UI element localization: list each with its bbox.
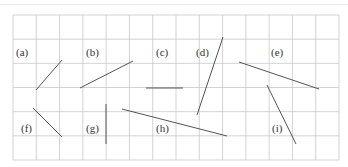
line-segments-grid-figure: (a)(b)(c)(d)(e)(f)(g)(h)(i) — [0, 0, 348, 167]
segment-e: (e) — [239, 46, 319, 89]
segment-f: (f) — [21, 108, 62, 137]
segment-d: (d) — [196, 37, 223, 115]
segment-c: (c) — [146, 46, 183, 88]
segment-label: (c) — [156, 46, 169, 59]
segment-label: (a) — [16, 46, 29, 59]
segment-g: (g) — [86, 104, 106, 144]
segment-label: (g) — [86, 122, 99, 135]
segment-label: (b) — [86, 46, 99, 59]
segment-line — [267, 85, 296, 144]
segment-line — [36, 60, 62, 90]
segment-line — [122, 109, 227, 136]
segment-a: (a) — [16, 46, 62, 90]
segment-label: (h) — [156, 122, 169, 135]
segment-line — [33, 108, 62, 137]
segment-line — [239, 62, 319, 89]
segments-layer: (a)(b)(c)(d)(e)(f)(g)(h)(i) — [16, 37, 319, 144]
segment-label: (i) — [272, 122, 283, 135]
segment-label: (e) — [271, 46, 284, 59]
segment-label: (f) — [21, 122, 32, 135]
segment-h: (h) — [122, 109, 227, 136]
segment-label: (d) — [196, 46, 209, 59]
segment-i: (i) — [267, 85, 296, 144]
